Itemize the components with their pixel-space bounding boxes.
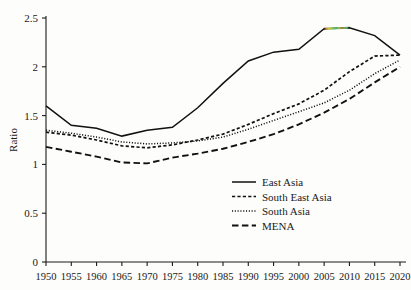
y-tick-label: 2 xyxy=(33,61,39,73)
y-tick-label: 1.5 xyxy=(24,110,38,122)
y-tick-label: 0 xyxy=(33,256,39,268)
legend-label-south-asia: South Asia xyxy=(262,205,310,217)
x-tick-label: 2020 xyxy=(390,271,411,282)
x-axis-ticks: 1950195519601965197019751980198519901995… xyxy=(36,262,411,282)
x-tick-label: 1995 xyxy=(263,271,284,282)
series-line-mena xyxy=(46,67,400,164)
x-tick-label: 1960 xyxy=(86,271,107,282)
x-tick-label: 2000 xyxy=(288,271,309,282)
chart-legend: East AsiaSouth East AsiaSouth AsiaMENA xyxy=(232,176,332,232)
x-tick-label: 1950 xyxy=(36,271,57,282)
x-tick-label: 1980 xyxy=(187,271,208,282)
data-series xyxy=(46,28,400,164)
y-tick-label: 0.5 xyxy=(24,207,38,219)
series-line-east-asia xyxy=(46,28,400,136)
scan-artifact-rainbow-segment xyxy=(324,28,349,29)
scan-artifact-overlay xyxy=(324,28,349,29)
x-tick-label: 1990 xyxy=(238,271,259,282)
axes xyxy=(46,16,406,262)
x-tick-label: 1955 xyxy=(61,271,82,282)
legend-label-east-asia: East Asia xyxy=(262,176,303,188)
x-tick-label: 1965 xyxy=(111,271,132,282)
x-tick-label: 2015 xyxy=(364,271,385,282)
y-axis-ticks: 00.511.522.5 xyxy=(24,12,46,268)
x-tick-label: 2005 xyxy=(314,271,335,282)
legend-label-mena: MENA xyxy=(262,220,294,232)
x-tick-label: 1985 xyxy=(213,271,234,282)
x-tick-label: 2010 xyxy=(339,271,360,282)
x-tick-label: 1975 xyxy=(162,271,183,282)
y-tick-label: 2.5 xyxy=(24,12,38,24)
line-chart: 00.511.522.5 195019551960196519701975198… xyxy=(0,0,411,290)
legend-label-south-east-asia: South East Asia xyxy=(262,191,332,203)
y-axis-title: Ratio xyxy=(7,128,19,152)
x-tick-label: 1970 xyxy=(137,271,158,282)
y-tick-label: 1 xyxy=(33,158,39,170)
chart-container: 00.511.522.5 195019551960196519701975198… xyxy=(0,0,411,290)
